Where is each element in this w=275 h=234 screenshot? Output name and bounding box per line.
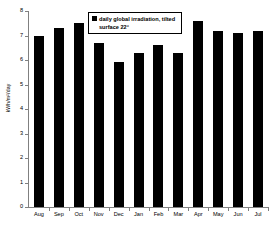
y-tick-label: 4 [9, 106, 23, 112]
bar [213, 31, 223, 207]
bar [94, 43, 104, 207]
x-tick-mark [188, 208, 189, 211]
y-tick-label: 6 [9, 57, 23, 63]
bar [193, 21, 203, 207]
x-tick-mark [208, 208, 209, 211]
x-tick-mark [268, 208, 269, 211]
x-tick-mark [248, 208, 249, 211]
bar [54, 28, 64, 207]
x-tick-mark [69, 208, 70, 211]
y-tick-label: 8 [9, 8, 23, 14]
bar-chart: kWh/m²/day 012345678 AugSepOctNovDecJanF… [0, 0, 275, 234]
bar [253, 31, 263, 207]
x-tick-mark [109, 208, 110, 211]
y-tick-label: 1 [9, 180, 23, 186]
bar [153, 45, 163, 207]
bar [74, 23, 84, 207]
filled-square-icon [92, 16, 97, 21]
bar [34, 36, 44, 208]
y-tick-label: 0 [9, 204, 23, 210]
legend-label-line2: surface 22° [99, 24, 129, 30]
y-tick-label: 5 [9, 82, 23, 88]
x-tick-mark [228, 208, 229, 211]
bar [233, 33, 243, 207]
x-tick-mark [168, 208, 169, 211]
y-tick-mark [25, 207, 29, 208]
y-tick-label: 7 [9, 33, 23, 39]
legend-entry: daily global irradiation, tilted surface… [92, 15, 178, 31]
bar [134, 53, 144, 207]
chart-legend: daily global irradiation, tilted surface… [88, 12, 182, 34]
legend-entry-label: daily global irradiation, tilted surface… [99, 15, 175, 31]
y-tick-label: 2 [9, 155, 23, 161]
x-tick-mark [149, 208, 150, 211]
y-tick-label: 3 [9, 131, 23, 137]
x-tick-mark [49, 208, 50, 211]
legend-label-line1: daily global irradiation, tilted [99, 16, 175, 22]
x-tick-mark [89, 208, 90, 211]
x-tick-mark [129, 208, 130, 211]
x-tick-label: Jul [245, 212, 271, 218]
bar [173, 53, 183, 207]
y-axis-title: kWh/m²/day [5, 68, 11, 128]
bar [114, 62, 124, 207]
bars-layer [29, 11, 268, 207]
